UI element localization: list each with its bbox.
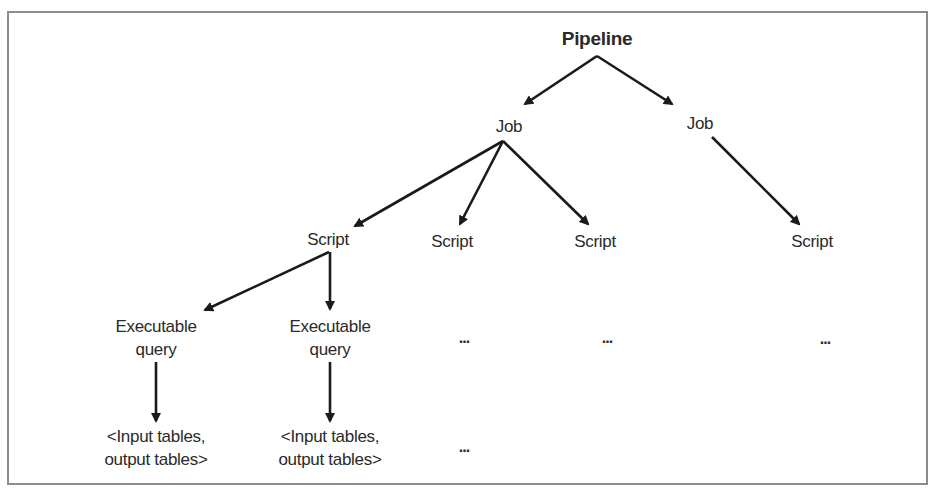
ellipsis-script2-children: ... (459, 330, 469, 346)
query-1-line2: query (115, 338, 196, 361)
node-script-4: Script (791, 230, 833, 253)
node-job-1: Job (496, 115, 523, 138)
node-query-1: Executable query (115, 315, 196, 361)
node-script-2: Script (431, 230, 473, 253)
tables-1-line1: <Input tables, (104, 425, 207, 448)
ellipsis-script4-children: ... (820, 331, 830, 347)
node-query-2: Executable query (289, 315, 370, 361)
tables-2-line2: output tables> (278, 448, 381, 471)
arrow-script1-query1 (205, 252, 329, 310)
node-job-2: Job (687, 112, 714, 135)
tables-1-line2: output tables> (104, 448, 207, 471)
arrow-job1-script3 (503, 141, 588, 224)
node-script-1: Script (307, 228, 349, 251)
node-tables-2: <Input tables, output tables> (278, 425, 381, 471)
node-pipeline: Pipeline (562, 27, 632, 50)
node-script-3: Script (574, 230, 616, 253)
query-1-line1: Executable (115, 315, 196, 338)
arrow-pipeline-job2 (597, 56, 672, 104)
node-tables-1: <Input tables, output tables> (104, 425, 207, 471)
query-2-line1: Executable (289, 315, 370, 338)
query-2-line2: query (289, 338, 370, 361)
ellipsis-more-tables: ... (459, 439, 469, 455)
arrow-job2-script4 (712, 137, 799, 224)
arrow-pipeline-job1 (525, 56, 597, 104)
ellipsis-script3-children: ... (602, 330, 612, 346)
tables-2-line1: <Input tables, (278, 425, 381, 448)
